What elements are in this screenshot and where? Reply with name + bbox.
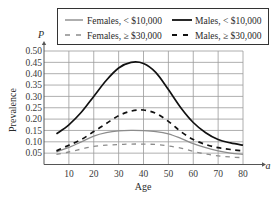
x-tick-label: 20 <box>89 169 99 179</box>
y-tick-label: 0.40 <box>25 69 42 79</box>
y-tick-label: 0.30 <box>25 92 42 102</box>
y-axis-label: Prevalence <box>7 88 18 132</box>
x-axis-variable: a <box>266 160 271 171</box>
x-tick-label: 30 <box>114 169 124 179</box>
series-females-under-10k <box>56 130 243 154</box>
legend-label-females-high: Females, ≥ $30,000 <box>87 31 162 41</box>
legend-label-males-high: Males, ≥ $30,000 <box>195 31 262 41</box>
x-tick-labels: 1020304050607080 <box>64 169 248 179</box>
y-tick-label: 0.15 <box>25 126 42 136</box>
x-axis-label: Age <box>135 181 152 192</box>
y-tick-label: 0.35 <box>25 80 42 90</box>
x-tick-label: 10 <box>64 169 74 179</box>
y-tick-label: 0.45 <box>25 58 42 68</box>
prevalence-chart: Females, < $10,000 Males, < $10,000 Fema… <box>0 0 277 199</box>
x-tick-label: 60 <box>189 169 199 179</box>
series-males-under-10k <box>56 62 243 145</box>
x-tick-label: 40 <box>139 169 149 179</box>
y-axis-variable: P <box>37 29 44 40</box>
gridlines <box>44 51 243 165</box>
legend-label-females-low: Females, < $10,000 <box>87 16 162 26</box>
series-females-over-30k <box>56 144 243 158</box>
data-series <box>56 62 243 158</box>
y-tick-label: 0.20 <box>25 114 42 124</box>
y-tick-label: 0.25 <box>25 103 42 113</box>
x-tick-label: 70 <box>213 169 223 179</box>
legend-label-males-low: Males, < $10,000 <box>195 16 262 26</box>
x-tick-label: 80 <box>238 169 248 179</box>
x-tick-label: 50 <box>164 169 174 179</box>
y-tick-label: 0.05 <box>25 148 42 158</box>
y-axis-arrow-icon <box>42 41 46 45</box>
axes <box>42 41 266 167</box>
y-tick-label: 0.50 <box>25 46 42 56</box>
y-tick-labels: 0.050.100.150.200.250.300.350.400.450.50 <box>25 46 42 158</box>
legend: Females, < $10,000 Males, < $10,000 Fema… <box>58 9 269 45</box>
y-tick-label: 0.10 <box>25 137 42 147</box>
